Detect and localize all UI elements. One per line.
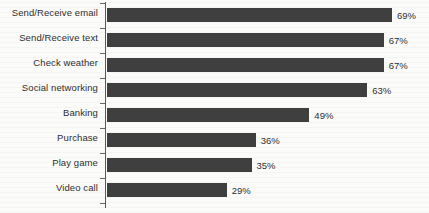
- axis-tick: [100, 78, 105, 79]
- chart-row: Play game35%: [0, 150, 429, 175]
- chart-row: Check weather67%: [0, 50, 429, 75]
- bar: [107, 33, 384, 47]
- chart-row: Send/Receive text67%: [0, 25, 429, 50]
- chart-row: Send/Receive email69%: [0, 0, 429, 25]
- chart-row: Social networking63%: [0, 75, 429, 100]
- bar-value-label: 35%: [257, 158, 276, 172]
- chart-row: Purchase36%: [0, 125, 429, 150]
- axis-tick: [100, 53, 105, 54]
- bar: [107, 83, 367, 97]
- bar: [107, 158, 252, 172]
- bar-value-label: 67%: [389, 58, 408, 72]
- category-label: Send/Receive text: [0, 25, 98, 50]
- category-label: Check weather: [0, 50, 98, 75]
- category-label: Purchase: [0, 125, 98, 150]
- axis-tick: [100, 203, 105, 204]
- bar-value-label: 36%: [261, 133, 280, 147]
- bar: [107, 183, 227, 197]
- axis-tick: [100, 103, 105, 104]
- bar: [107, 108, 309, 122]
- axis-tick: [100, 153, 105, 154]
- category-label: Banking: [0, 100, 98, 125]
- bar: [107, 58, 384, 72]
- chart-row: Video call29%: [0, 175, 429, 200]
- category-label: Video call: [0, 175, 98, 200]
- category-label: Social networking: [0, 75, 98, 100]
- bar: [107, 133, 256, 147]
- bar-value-label: 63%: [372, 83, 391, 97]
- category-label: Send/Receive email: [0, 0, 98, 25]
- bar-value-label: 49%: [314, 108, 333, 122]
- horizontal-bar-chart: Send/Receive email69%Send/Receive text67…: [0, 0, 429, 213]
- category-label: Play game: [0, 150, 98, 175]
- axis-tick: [100, 178, 105, 179]
- chart-row: Banking49%: [0, 100, 429, 125]
- bar: [107, 8, 392, 22]
- axis-tick: [100, 28, 105, 29]
- axis-tick: [100, 3, 105, 4]
- bar-value-label: 69%: [397, 8, 416, 22]
- bar-value-label: 29%: [232, 183, 251, 197]
- bar-value-label: 67%: [389, 33, 408, 47]
- axis-tick: [100, 128, 105, 129]
